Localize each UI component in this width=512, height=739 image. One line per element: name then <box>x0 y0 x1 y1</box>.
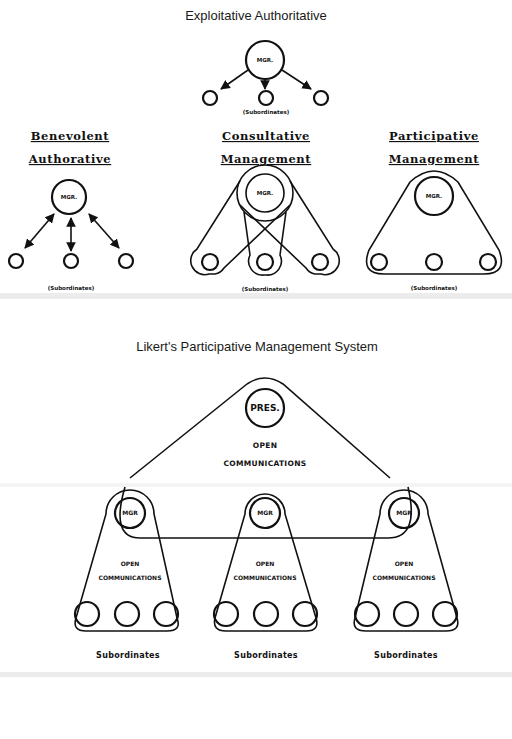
subordinates-label: Subordinates <box>374 651 438 660</box>
subordinate-node <box>75 602 99 626</box>
communications-label: COMMUNICATIONS <box>99 574 162 581</box>
arrow-down-left <box>221 70 248 89</box>
manager-label: MGR. <box>257 190 273 196</box>
subordinate-node <box>64 254 78 268</box>
manager-label: MGR. <box>257 57 273 63</box>
scan-band <box>0 483 512 487</box>
open-label: OPEN <box>253 441 277 450</box>
likert-group-3: MGR OPEN COMMUNICATIONS Subordinates <box>354 490 458 660</box>
subordinate-node <box>293 602 317 626</box>
subordinate-node <box>433 602 457 626</box>
right-link-loop <box>240 181 339 275</box>
likert-system-diagram: Likert's Participative Management System… <box>75 339 458 660</box>
subordinate-node <box>312 254 328 270</box>
subordinate-node <box>355 602 379 626</box>
subordinates-label: (Subordinates) <box>411 285 458 291</box>
two-way-arrow <box>89 214 119 248</box>
subordinate-node <box>9 254 23 268</box>
subordinate-node <box>259 91 273 105</box>
manager-label: MGR <box>396 509 412 516</box>
participative-heading-line2: Management <box>389 152 480 166</box>
subordinates-label: (Subordinates) <box>243 109 290 115</box>
subordinates-label: Subordinates <box>234 651 298 660</box>
subordinate-node <box>480 254 496 270</box>
subordinate-node <box>371 254 387 270</box>
subordinates-label: (Subordinates) <box>242 286 289 292</box>
exploitative-title: Exploitative Authoritative <box>185 8 327 23</box>
open-label: OPEN <box>256 560 275 567</box>
subordinate-node <box>314 91 328 105</box>
subordinate-node <box>202 254 218 270</box>
manager-label: MGR <box>122 509 138 516</box>
manager-label: MGR. <box>61 194 77 200</box>
subordinate-node <box>257 254 273 270</box>
exploitative-authoritative-diagram: Exploitative Authoritative MGR. (Subordi… <box>185 8 328 115</box>
management-systems-diagram: Exploitative Authoritative MGR. (Subordi… <box>0 0 512 739</box>
benevolent-heading-line1: Benevolent <box>31 129 110 143</box>
subordinate-node <box>115 602 139 626</box>
communications-label: COMMUNICATIONS <box>224 459 307 468</box>
left-link-loop <box>191 181 290 275</box>
subordinate-node <box>203 91 217 105</box>
consultative-heading-line1: Consultative <box>222 129 310 143</box>
consultative-management-diagram: Consultative Management MGR. (Subordinat… <box>191 129 340 292</box>
subordinate-node <box>119 254 133 268</box>
subordinate-node <box>214 602 238 626</box>
open-label: OPEN <box>121 560 140 567</box>
manager-label: MGR. <box>426 193 442 199</box>
communications-label: COMMUNICATIONS <box>234 574 297 581</box>
subordinate-node <box>154 602 178 626</box>
manager-label: MGR <box>257 509 273 516</box>
subordinates-label: (Subordinates) <box>48 285 95 291</box>
likert-group-2: MGR OPEN COMMUNICATIONS Subordinates <box>214 494 317 660</box>
participative-management-diagram: Participative Management MGR. (Subordina… <box>367 129 502 291</box>
open-label: OPEN <box>395 560 414 567</box>
benevolent-authorative-diagram: Benevolent Authorative MGR. (Subordinate… <box>9 129 133 291</box>
arrow-down-right <box>282 70 311 89</box>
participative-heading-line1: Participative <box>389 129 479 143</box>
benevolent-heading-line2: Authorative <box>28 152 111 166</box>
likert-group-1: MGR OPEN COMMUNICATIONS Subordinates <box>75 490 178 660</box>
president-label: PRES. <box>250 403 280 413</box>
scan-band <box>0 293 512 299</box>
communications-label: COMMUNICATIONS <box>373 574 436 581</box>
subordinates-label: Subordinates <box>96 651 160 660</box>
consultative-heading-line2: Management <box>221 152 312 166</box>
scan-band <box>0 672 512 677</box>
subordinate-node <box>426 254 442 270</box>
subordinate-node <box>254 602 278 626</box>
two-way-arrow <box>25 214 54 248</box>
subordinate-node <box>394 602 418 626</box>
likert-title: Likert's Participative Management System <box>136 339 378 354</box>
